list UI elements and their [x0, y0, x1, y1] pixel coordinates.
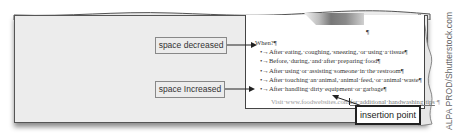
callout-space-increased: space Increased: [155, 81, 225, 98]
callout-insertion-point: insertion point: [355, 105, 421, 125]
arrow-space-decreased: [227, 40, 257, 50]
watermark-credit: ALPA PROD/Shutterstock.com: [444, 12, 454, 130]
bullet-item: •→After·using·or·assisting·someone·in·th…: [255, 66, 440, 75]
document-image: [304, 13, 364, 25]
callout-space-decreased: space decreased: [155, 37, 227, 54]
bullet-item: •→After·touching·an·animal,·animal·feed,…: [255, 75, 440, 84]
bullet-item: •→After·eating,·coughing,·sneezing,·or·u…: [255, 47, 440, 56]
visit-suffix: ·¶: [435, 98, 440, 105]
bullet-item: •→Before,·during,·and·after·preparing·fo…: [255, 56, 440, 65]
paragraph-mark: ¶: [366, 28, 369, 36]
bullet-item: •→After·handling·dirty·equipment·or·garb…: [255, 84, 440, 93]
heading-when: When?¶: [255, 38, 440, 47]
arrow-space-increased: [225, 84, 255, 94]
